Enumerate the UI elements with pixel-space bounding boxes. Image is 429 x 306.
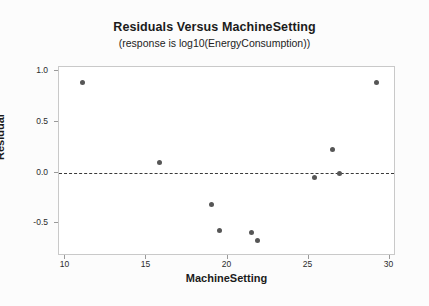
data-point — [209, 202, 214, 207]
x-tick-label: 20 — [222, 259, 231, 269]
x-tick-label: 25 — [303, 259, 312, 269]
x-tick-label: 30 — [384, 259, 393, 269]
data-point — [337, 171, 342, 176]
x-tick-label: 10 — [60, 259, 69, 269]
x-tick-mark — [308, 255, 309, 259]
plot-area — [58, 66, 395, 255]
data-point — [374, 80, 379, 85]
x-tick-mark — [145, 255, 146, 259]
plot-inner — [59, 67, 394, 254]
x-tick-label: 15 — [141, 259, 150, 269]
residual-plot-figure: Residuals Versus MachineSetting (respons… — [0, 0, 429, 306]
x-tick-mark — [64, 255, 65, 259]
data-point — [249, 230, 254, 235]
data-point — [157, 160, 162, 165]
data-point — [312, 175, 317, 180]
data-point — [217, 228, 222, 233]
x-tick-mark — [389, 255, 390, 259]
data-point — [330, 147, 335, 152]
x-tick-mark — [227, 255, 228, 259]
data-point — [255, 238, 260, 243]
zero-reference-line — [59, 173, 394, 174]
data-point — [80, 80, 85, 85]
